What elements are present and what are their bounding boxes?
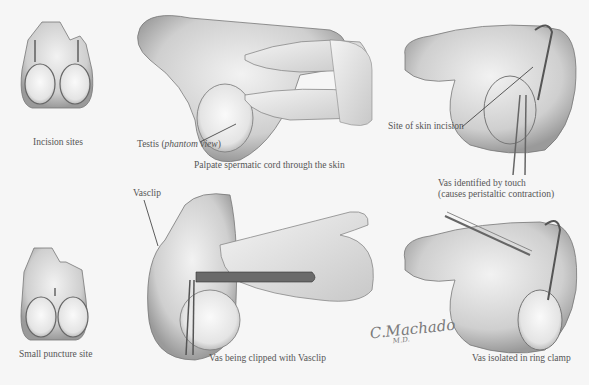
caption-palpate-spermatic-cord: Palpate spermatic cord through the skin: [194, 160, 345, 171]
callout-testis-phantom-view: Testis (phantom view): [137, 139, 221, 150]
caption-small-puncture-site: Small puncture site: [19, 349, 92, 360]
caption-ring-clamp: Vas isolated in ring clamp: [472, 353, 571, 364]
caption-vas-identified-line2: (causes peristaltic contraction): [438, 189, 554, 200]
caption-incision-sites: Incision sites: [33, 137, 83, 148]
callout-site-of-skin-incision: Site of skin incision: [388, 121, 464, 132]
callout-vasclip: Vasclip: [133, 188, 161, 199]
caption-vas-identified-line1: Vas identified by touch: [438, 178, 526, 189]
caption-vas-clipped: Vas being clipped with Vasclip: [209, 353, 326, 364]
